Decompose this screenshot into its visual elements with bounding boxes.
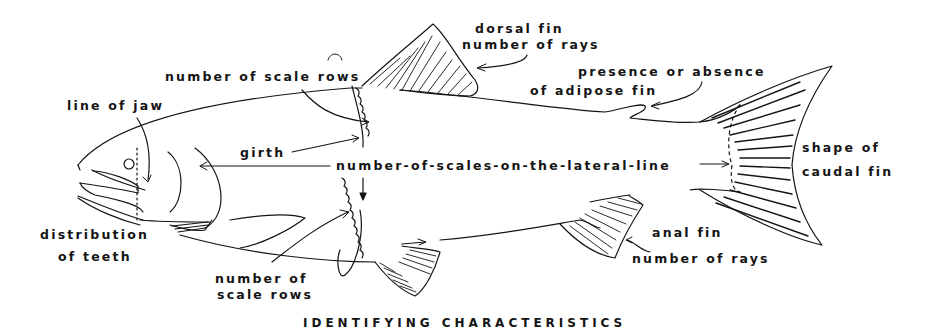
caudal-fin	[700, 66, 832, 245]
line-of-jaw-leader	[137, 118, 149, 180]
label-caudal-shape: shape of	[802, 141, 880, 155]
label-scale-rows-top: number of scale rows	[165, 70, 360, 84]
label-dorsal-fin: dorsal fin	[475, 22, 564, 36]
upper-jaw	[80, 171, 138, 193]
fish-diagram: dorsal fin number of rays number of scal…	[0, 0, 933, 333]
label-dorsal-fin-rays: number of rays	[462, 38, 600, 52]
diagram-title: IDENTIFYING CHARACTERISTICS	[303, 316, 626, 330]
scale-rows-bottom-scallops	[342, 178, 363, 258]
label-teeth-distribution: distribution	[40, 228, 149, 242]
label-scale-rows-bottom-2: scale rows	[217, 288, 313, 302]
gill-cover-1	[168, 152, 181, 212]
dorsal-fin-leader	[478, 55, 527, 68]
gill-cover-2	[195, 148, 221, 228]
lower-jaw	[80, 183, 143, 212]
snout	[78, 165, 80, 170]
scale-rows-bottom-leader	[272, 212, 348, 262]
label-caudal-fin: caudal fin	[802, 165, 893, 179]
pelvic-fin-rays	[380, 250, 436, 292]
label-lateral-line: number-of-scales-on-the-lateral-line	[336, 159, 671, 173]
label-anal-fin: anal fin	[652, 226, 723, 240]
label-line-of-jaw: line of jaw	[67, 99, 164, 113]
anal-fin	[560, 195, 643, 258]
girth-leader	[292, 138, 358, 152]
label-girth: girth	[240, 146, 285, 160]
scale-rows-bottom-ring	[338, 210, 361, 276]
label-scale-rows-bottom-1: number of	[215, 272, 308, 286]
operculum-bottom	[140, 220, 210, 222]
label-teeth: of teeth	[58, 250, 132, 264]
label-adipose-fin: of adipose fin	[530, 84, 657, 98]
label-adipose-presence: presence or absence	[578, 65, 766, 79]
label-anal-fin-rays: number of rays	[632, 252, 770, 266]
pelvic-body-line	[230, 215, 305, 248]
caudal-fin-rays	[712, 82, 808, 236]
eye	[124, 159, 134, 169]
